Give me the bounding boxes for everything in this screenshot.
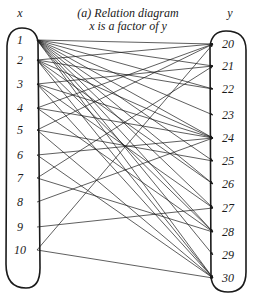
y-value: 23 — [222, 108, 234, 122]
y-value: 30 — [221, 271, 234, 285]
relation-arrows — [37, 40, 213, 278]
x-set-label: x — [16, 6, 23, 20]
x-value: 6 — [17, 148, 23, 162]
relation-diagram: (a) Relation diagram x is a factor of y … — [0, 0, 255, 293]
relation-arrow — [37, 40, 213, 184]
y-value: 27 — [222, 201, 235, 215]
y-value: 24 — [222, 131, 234, 145]
x-value: 2 — [17, 53, 23, 67]
y-set-label: y — [226, 6, 233, 20]
y-value: 29 — [222, 248, 234, 262]
diagram-title: (a) Relation diagram — [77, 6, 179, 20]
relation-arrow — [37, 40, 213, 208]
relation-arrow — [37, 66, 213, 178]
relation-arrow — [37, 44, 213, 60]
relation-arrow — [37, 40, 213, 44]
x-value: 9 — [17, 220, 23, 234]
relation-arrow — [37, 60, 213, 278]
x-value: 8 — [17, 195, 23, 209]
y-value: 21 — [222, 59, 234, 73]
relation-arrow — [37, 130, 213, 161]
y-value: 22 — [222, 82, 234, 96]
relation-arrow — [37, 155, 213, 278]
x-value: 10 — [14, 243, 26, 257]
relation-arrow — [37, 84, 213, 138]
relation-arrow — [37, 84, 213, 208]
x-value: 4 — [17, 101, 23, 115]
y-value: 25 — [222, 154, 234, 168]
y-value: 28 — [222, 225, 234, 239]
y-value: 26 — [222, 177, 234, 191]
relation-arrow — [37, 44, 213, 130]
x-value: 3 — [16, 77, 23, 91]
x-value: 1 — [17, 33, 23, 47]
y-values: 2021222324252627282930 — [221, 37, 235, 285]
x-values: 12345678910 — [14, 33, 26, 257]
relation-arrow — [37, 40, 213, 115]
relation-arrow — [37, 84, 213, 278]
x-value: 7 — [17, 171, 24, 185]
y-value: 20 — [222, 37, 234, 51]
diagram-subtitle: x is a factor of y — [88, 19, 167, 33]
relation-arrow — [37, 40, 213, 161]
x-value: 5 — [17, 123, 23, 137]
relation-arrow — [37, 40, 213, 66]
relation-arrow — [37, 250, 213, 278]
